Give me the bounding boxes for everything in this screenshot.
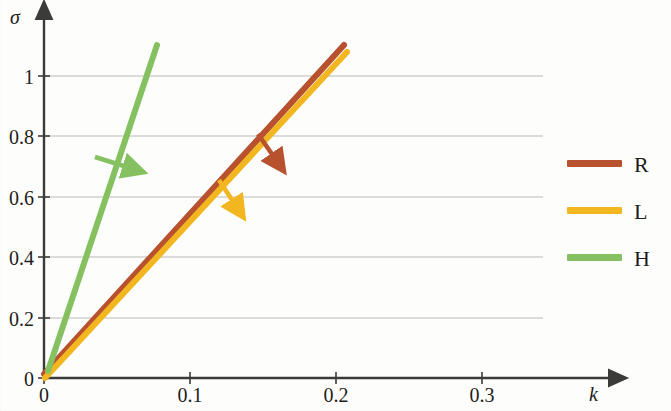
y-tick-label-0.6: 0.6 (0, 187, 34, 210)
x-tick-label-0.1: 0.1 (166, 384, 214, 407)
y-tick-label-0.4: 0.4 (0, 247, 34, 270)
y-tick-label-0.8: 0.8 (0, 126, 34, 149)
legend-label-R: R (634, 152, 649, 178)
y-tick-label-1: 1 (0, 66, 34, 89)
legend-label-L: L (634, 199, 647, 225)
plot-area (0, 0, 671, 411)
figure-canvas: 1 0.8 0.6 0.4 0.2 0 0 0.1 0.2 0.3 σ k R … (0, 0, 671, 411)
legend-label-H: H (634, 246, 650, 272)
y-axis-label: σ (10, 6, 20, 29)
legend-swatch-H (567, 254, 622, 261)
x-tick-label-0.2: 0.2 (312, 384, 360, 407)
series-line-R (44, 45, 344, 374)
x-tick-label-0: 0 (28, 384, 60, 407)
y-tick-label-0.2: 0.2 (0, 308, 34, 331)
series-line-H (48, 45, 157, 371)
legend-swatch-R (567, 160, 622, 167)
x-axis-label: k (589, 383, 598, 406)
x-tick-label-0.3: 0.3 (458, 384, 506, 407)
series-line-L (45, 52, 347, 378)
legend-swatch-L (567, 207, 622, 214)
